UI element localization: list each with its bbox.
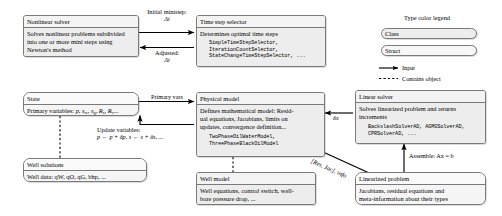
legend-key-input: Input — [402, 64, 415, 72]
diagram-canvas: Nonlinear solver Solves nonlinear proble… — [0, 0, 502, 216]
legend-title: Type color legend — [404, 14, 450, 21]
type-color-legend: Type color legend Class Struct Input Con… — [0, 0, 502, 216]
legend-swatch-class: Class — [381, 28, 477, 39]
legend-swatch-struct: Struct — [381, 45, 477, 56]
legend-key-contains: Contains object — [402, 75, 441, 83]
